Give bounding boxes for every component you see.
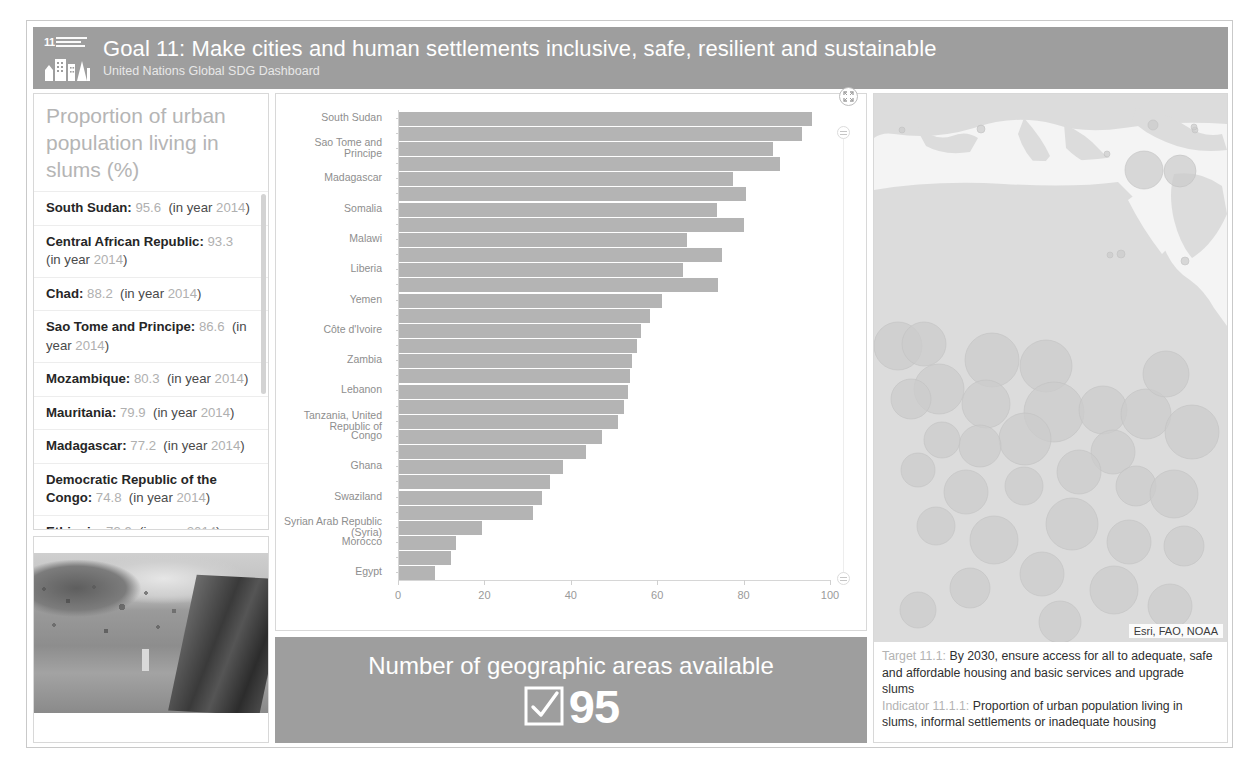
chart-bar[interactable] — [399, 157, 780, 171]
list-item-year: 2014 — [94, 252, 123, 267]
chart-bar[interactable] — [399, 112, 812, 126]
list-item-year: 2014 — [201, 405, 230, 420]
chart-bar[interactable] — [399, 536, 456, 550]
indicator-label: Indicator 11.1.1: — [882, 699, 969, 713]
list-item[interactable]: Mauritania: 79.9 (in year 2014) — [34, 396, 268, 430]
expand-fullscreen-icon[interactable] — [839, 87, 858, 106]
list-item-year: 2014 — [216, 200, 245, 215]
chart-bar[interactable] — [399, 445, 586, 459]
chart-bar[interactable] — [399, 566, 435, 580]
chart-x-tick — [657, 580, 658, 585]
chart-bar[interactable] — [399, 233, 687, 247]
chart-bar[interactable] — [399, 309, 650, 323]
chart-bar[interactable] — [399, 475, 550, 489]
chart-x-tick-label: 100 — [821, 589, 839, 601]
list-item-name: Mauritania — [46, 405, 112, 420]
chart-y-axis-label: Malawi — [278, 233, 382, 245]
chart-x-tick — [830, 580, 831, 585]
slum-photo-panel — [33, 536, 269, 743]
list-item[interactable]: Chad: 88.2 (in year 2014) — [34, 277, 268, 311]
sdg-logo-wordmark — [56, 37, 89, 49]
chart-y-axis-label: Liberia — [278, 263, 382, 275]
list-item-year-prefix: (in year — [139, 524, 187, 530]
chart-bar[interactable] — [399, 460, 563, 474]
chart-y-axis-labels: South SudanSao Tome and PrincipeMadagasc… — [280, 110, 390, 580]
chart-bar[interactable] — [399, 369, 630, 383]
chart-bars[interactable] — [398, 110, 830, 580]
chart-bar[interactable] — [399, 218, 744, 232]
chart-bar[interactable] — [399, 172, 733, 186]
list-item[interactable]: Ethiopia: 73.9 (in year 2014) — [34, 515, 268, 530]
list-item[interactable]: Central African Republic: 93.3 (in year … — [34, 225, 268, 277]
list-scrollbar[interactable] — [261, 194, 266, 394]
kpi-value: 95 — [569, 683, 619, 730]
chart-x-tick-label: 0 — [395, 589, 401, 601]
chart-plot-area: South SudanSao Tome and PrincipeMadagasc… — [276, 110, 868, 610]
list-item-name: South Sudan — [46, 200, 127, 215]
chart-x-tick-label: 60 — [651, 589, 663, 601]
list-item[interactable]: Mozambique: 80.3 (in year 2014) — [34, 362, 268, 396]
chart-bar[interactable] — [399, 491, 542, 505]
chart-scroll-track[interactable] — [843, 132, 844, 584]
list-item-year-prefix: (in year — [168, 200, 216, 215]
chart-bar[interactable] — [399, 248, 722, 262]
list-panel-title: Proportion of urban population living in… — [34, 94, 268, 189]
dashboard-root: 11 Goal 11: Make ci — [26, 20, 1233, 748]
list-item-value: 95.6 — [135, 200, 161, 215]
chart-bar[interactable] — [399, 294, 662, 308]
list-item-value: 80.3 — [134, 371, 160, 386]
chart-y-axis-label: Ghana — [278, 461, 382, 473]
chart-bar[interactable] — [399, 415, 618, 429]
chart-x-tick-label: 20 — [478, 589, 490, 601]
chart-bar[interactable] — [399, 324, 641, 338]
chart-bar[interactable] — [399, 354, 632, 368]
sdg-city-skyline-icon — [44, 55, 90, 81]
list-scroll-region[interactable]: South Sudan: 95.6 (in year 2014)Central … — [34, 191, 268, 529]
chart-x-tick — [484, 580, 485, 585]
map-canvas[interactable]: Esri, FAO, NOAA — [874, 94, 1227, 642]
chart-y-axis-label: Côte d'Ivoire — [278, 324, 382, 336]
list-item[interactable]: South Sudan: 95.6 (in year 2014) — [34, 191, 268, 225]
list-item-year: 2014 — [211, 438, 240, 453]
header-text-block: Goal 11: Make cities and human settlemen… — [103, 36, 937, 80]
slum-proportion-list-panel: Proportion of urban population living in… — [33, 93, 269, 530]
chart-x-tick — [744, 580, 745, 585]
chart-bar[interactable] — [399, 385, 628, 399]
chart-bar[interactable] — [399, 263, 683, 277]
list-item[interactable]: Democratic Republic of the Congo: 74.8 (… — [34, 463, 268, 515]
bar-chart-panel: South SudanSao Tome and PrincipeMadagasc… — [275, 93, 867, 631]
chart-bar[interactable] — [399, 203, 717, 217]
chart-y-axis-label: South Sudan — [278, 112, 382, 124]
list-item-name: Sao Tome and Principe — [46, 319, 191, 334]
list-item-name: Mozambique — [46, 371, 126, 386]
scroll-grip-icon-top[interactable] — [837, 126, 850, 139]
dashboard-header: 11 Goal 11: Make ci — [33, 27, 1228, 89]
checkbox-checked-icon — [523, 685, 565, 727]
photo-post — [142, 649, 149, 671]
sdg-goal-number: 11 — [44, 36, 55, 48]
chart-bar[interactable] — [399, 551, 451, 565]
chart-bar[interactable] — [399, 278, 718, 292]
list-item-year: 2014 — [176, 490, 205, 505]
chart-bar[interactable] — [399, 142, 773, 156]
chart-bar[interactable] — [399, 506, 533, 520]
left-column: Proportion of urban population living in… — [33, 93, 269, 743]
list-item[interactable]: Madagascar: 77.2 (in year 2014) — [34, 429, 268, 463]
scroll-grip-icon-bottom[interactable] — [837, 572, 850, 585]
list-item-value: 86.6 — [199, 319, 225, 334]
indicator-text-line: Indicator 11.1.1: Proportion of urban po… — [882, 698, 1219, 731]
chart-bar[interactable] — [399, 187, 746, 201]
chart-x-axis-line — [398, 580, 830, 581]
map-footer: Target 11.1: By 2030, ensure access for … — [874, 642, 1227, 742]
list-item[interactable]: Sao Tome and Principe: 86.6 (in year 201… — [34, 310, 268, 362]
chart-bar[interactable] — [399, 400, 624, 414]
chart-bar[interactable] — [399, 127, 802, 141]
chart-y-axis-label: Yemen — [278, 294, 382, 306]
list-item-value: 77.2 — [130, 438, 156, 453]
chart-bar[interactable] — [399, 339, 637, 353]
list-item-year-prefix: (in year — [46, 252, 94, 267]
chart-bar[interactable] — [399, 521, 482, 535]
sdg-goal-11-logo-icon: 11 — [43, 34, 91, 82]
chart-x-tick-label: 80 — [737, 589, 749, 601]
chart-bar[interactable] — [399, 430, 602, 444]
